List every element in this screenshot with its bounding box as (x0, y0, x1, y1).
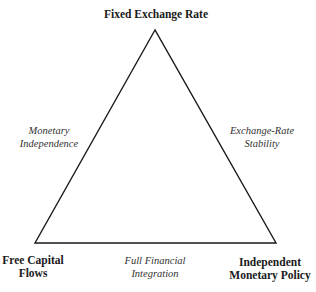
vertex-label-fixed-exchange-rate: Fixed Exchange Rate (95, 8, 217, 21)
label-line1: Monetary (12, 124, 86, 137)
label-text: Fixed Exchange Rate (104, 8, 208, 20)
label-line1: Full Financial (115, 254, 195, 267)
label-line2: Independence (12, 137, 86, 150)
label-line2: Stability (220, 137, 304, 150)
label-line2: Integration (115, 267, 195, 280)
edge-label-monetary-independence: Monetary Independence (12, 124, 86, 150)
label-line1: Free Capital (2, 254, 64, 267)
label-line1: Exchange-Rate (220, 124, 304, 137)
vertex-label-independent-monetary-policy: Independent Monetary Policy (224, 256, 316, 282)
edge-label-full-financial-integration: Full Financial Integration (115, 254, 195, 280)
label-line1: Independent (224, 256, 316, 269)
label-line2: Monetary Policy (224, 269, 316, 282)
label-line2: Flows (2, 267, 64, 280)
edge-label-exchange-rate-stability: Exchange-Rate Stability (220, 124, 304, 150)
vertex-label-free-capital-flows: Free Capital Flows (2, 254, 64, 280)
